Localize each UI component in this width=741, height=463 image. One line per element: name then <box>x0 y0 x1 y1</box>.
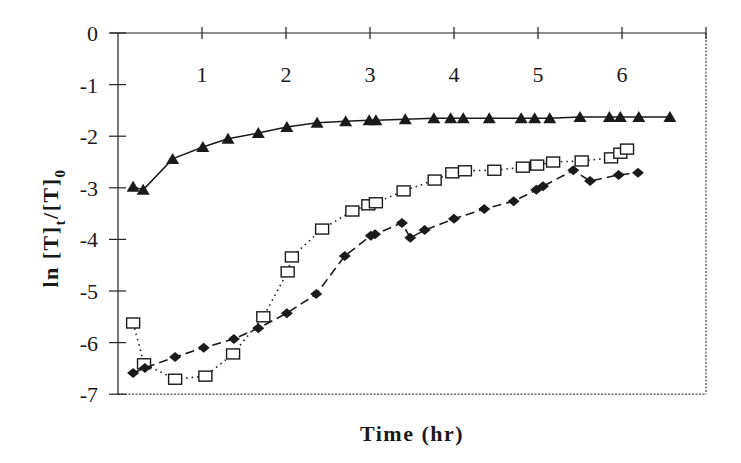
square-marker <box>531 160 544 170</box>
diamond-marker <box>198 343 210 353</box>
y-axis-title-main: ln [T] <box>38 225 63 287</box>
x-axis-title: Time (hr) <box>360 421 464 446</box>
diamond-marker <box>632 168 644 178</box>
diamond-marker <box>169 352 181 362</box>
square-marker <box>346 206 359 216</box>
triangle-marker <box>127 181 140 192</box>
series-line <box>133 170 638 373</box>
y-tick-label: -4 <box>80 227 98 252</box>
square-marker <box>397 186 410 196</box>
x-tick-label: 4 <box>449 62 460 87</box>
square-marker <box>446 168 459 178</box>
square-marker <box>516 162 529 172</box>
diamond-marker <box>613 170 625 180</box>
chart: 0-1-2-3-4-5-6-7 123456 Time (hr) ln [T]t… <box>0 0 741 463</box>
diamond-marker <box>252 323 264 333</box>
triangle-marker <box>196 141 209 152</box>
series-line <box>133 149 627 379</box>
x-tick-label: 1 <box>197 62 208 87</box>
y-tick-label: -6 <box>80 331 98 356</box>
diamond-marker <box>448 214 460 224</box>
square-marker <box>458 166 471 176</box>
y-tick-label: -1 <box>80 73 98 98</box>
square-marker <box>281 267 294 277</box>
x-axis-ticks: 123456 <box>197 27 707 87</box>
square-marker <box>227 349 240 359</box>
diamond-marker <box>310 289 322 299</box>
diamond-marker <box>508 196 520 206</box>
y-tick-label: -2 <box>80 124 98 149</box>
diamond-marker <box>228 334 240 344</box>
diamond-marker <box>478 204 490 214</box>
square-marker <box>285 252 298 262</box>
x-tick-label: 2 <box>281 62 292 87</box>
y-axis-title: ln [T]t/[T]0 <box>38 168 68 287</box>
x-tick-label: 5 <box>533 62 544 87</box>
y-tick-label: -7 <box>80 382 98 407</box>
diamond-marker <box>404 233 416 243</box>
square-marker <box>169 374 182 384</box>
diamond-marker <box>567 165 579 175</box>
plot-frame <box>110 33 706 394</box>
square-marker <box>316 224 329 234</box>
square-marker <box>621 144 634 154</box>
diamond-marker <box>127 368 139 378</box>
svg-text:ln [T]t/[T]0: ln [T]t/[T]0 <box>38 168 68 287</box>
triangle-marker <box>166 153 179 164</box>
diamond-marker <box>419 225 431 235</box>
diamond-marker <box>396 218 408 228</box>
x-tick-label: 3 <box>365 62 376 87</box>
square-marker <box>488 165 501 175</box>
square-marker <box>428 175 441 185</box>
series-diamonds <box>127 165 644 378</box>
y-tick-label: 0 <box>87 21 98 46</box>
y-tick-label: -3 <box>80 176 98 201</box>
y-axis-title-mid: /[T] <box>38 177 63 219</box>
square-marker <box>575 156 588 166</box>
y-axis-title-sub2: 0 <box>52 168 68 177</box>
x-tick-label: 6 <box>617 62 628 87</box>
square-marker <box>369 198 382 208</box>
y-axis-ticks: 0-1-2-3-4-5-6-7 <box>80 21 126 407</box>
data-series <box>127 111 677 384</box>
square-marker <box>127 318 140 328</box>
y-tick-label: -5 <box>80 279 98 304</box>
square-marker <box>199 371 212 381</box>
square-marker <box>547 157 560 167</box>
square-marker <box>257 312 270 322</box>
